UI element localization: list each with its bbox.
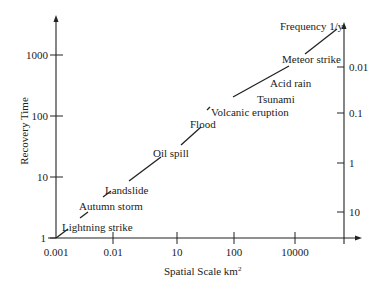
event-label-flood: Flood <box>190 119 216 130</box>
x-tick-label: 100 <box>226 247 243 258</box>
event-label-acid-rain: Acid rain <box>270 78 311 89</box>
y-axis-title: Recovery Time <box>18 95 30 167</box>
event-label-tsunami: Tsunami <box>257 94 295 105</box>
x-axis-title: Spatial Scale km2 <box>164 266 241 277</box>
event-label-lightning-strike: Lightning strike <box>62 222 133 233</box>
y2-tick-label: 0.1 <box>349 108 363 119</box>
event-label-volcanic-eruption: Volcanic eruption <box>211 107 289 118</box>
x-tick-label: 0.01 <box>103 247 122 258</box>
y-tick-label: 1 <box>16 233 46 244</box>
event-label-landslide: Landslide <box>105 185 148 196</box>
event-label-autumn-storm: Autumn storm <box>79 201 143 212</box>
y2-axis-title: Frequency 1/y <box>280 21 343 32</box>
event-label-meteor-strike: Meteor strike <box>282 54 341 65</box>
y-axis-arrow-icon <box>54 15 59 22</box>
event-label-oil-spill: Oil spill <box>153 148 189 159</box>
y2-tick-label: 1 <box>349 158 355 169</box>
y2-tick-label: 0.01 <box>349 62 368 73</box>
y2-tick-label: 10 <box>349 207 360 218</box>
y-tick-label: 1000 <box>18 50 48 61</box>
y-ticks-right <box>337 67 344 212</box>
x-tick-label: 10 <box>172 247 183 258</box>
x-tick-label: 10000 <box>281 247 309 258</box>
x-tick-label: 0.001 <box>44 247 69 258</box>
x-axis-arrow-icon <box>355 236 362 241</box>
y-tick-label: 10 <box>18 172 48 183</box>
